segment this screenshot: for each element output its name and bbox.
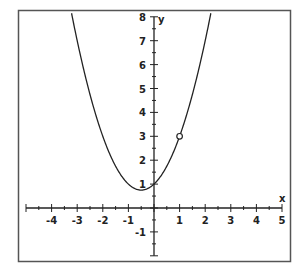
x-tick-label: 3 [227,215,234,226]
x-axis-label: x [279,193,286,204]
x-tick-label: -1 [123,215,134,226]
x-tick-label: -4 [46,215,57,226]
function-plot: -4-3-2-112345-112345678 x y [0,0,299,274]
x-tick-label: 5 [279,215,286,226]
x-tick-label: -3 [72,215,83,226]
y-tick-label: 7 [139,36,146,47]
x-tick-label: 1 [176,215,183,226]
x-tick-label: 4 [253,215,260,226]
x-tick-label: -2 [97,215,108,226]
x-tick-label: 2 [202,215,209,226]
y-tick-label: -1 [135,227,146,238]
y-tick-label: 2 [139,155,146,166]
y-tick-label: 1 [139,179,146,190]
y-tick-label: 3 [139,131,146,142]
y-tick-label: 5 [139,84,146,95]
y-axis-label: y [158,14,165,25]
y-tick-label: 4 [139,107,146,118]
hole-marker [177,134,183,140]
y-tick-label: 8 [139,12,146,23]
y-tick-label: 6 [139,60,146,71]
